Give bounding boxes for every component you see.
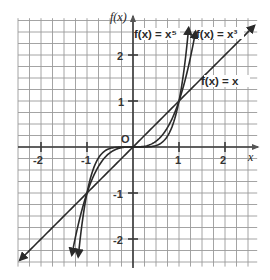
origin-label: O xyxy=(121,133,130,145)
curve-label-x: f(x) = x xyxy=(201,75,239,87)
x-tick-label: 2 xyxy=(220,154,226,166)
x-tick-label: -2 xyxy=(33,154,43,166)
x-tick-label: 1 xyxy=(175,154,181,166)
x-tick-label: -1 xyxy=(81,154,91,166)
y-axis-label: f(x) xyxy=(110,10,127,24)
y-tick-label: -1 xyxy=(113,188,123,200)
x-axis-label: x xyxy=(247,150,254,164)
curve-x1 xyxy=(20,26,255,261)
curves xyxy=(20,26,255,261)
y-tick-label: 2 xyxy=(117,50,123,62)
curve-label-x5: f(x) = x⁵ xyxy=(134,28,177,40)
tick-labels: -2 -1 1 2 2 1 -1 -2 xyxy=(33,50,226,246)
y-tick-label: 1 xyxy=(118,96,124,108)
curve-label-x3: f(x) = x³ xyxy=(196,28,237,40)
y-tick-label: -2 xyxy=(113,234,123,246)
function-graph: -2 -1 1 2 2 1 -1 -2 O x f(x) f(x) = x⁵ f… xyxy=(0,0,270,280)
